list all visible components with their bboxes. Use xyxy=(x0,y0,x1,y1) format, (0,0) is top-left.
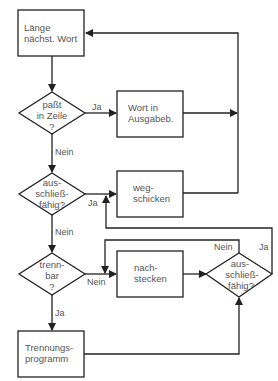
node-text: Länge xyxy=(24,22,50,33)
node-text: ? xyxy=(49,121,54,132)
edge-n5-d4 xyxy=(84,298,239,354)
label-d2-nein: Nein xyxy=(55,227,74,237)
node-text: Trennungs- xyxy=(25,342,73,353)
process-box-nachstecken: nach- stecken xyxy=(117,251,183,297)
label-d3-ja: Ja xyxy=(55,308,65,318)
node-text: trenn- xyxy=(40,259,65,270)
decision-passt-in-zeile: paßt in Zeile ? xyxy=(19,92,85,134)
node-text: bar xyxy=(45,270,59,281)
process-box-wegschicken: weg- schicken xyxy=(117,171,183,217)
node-text: schicken xyxy=(133,193,170,204)
node-text: weg- xyxy=(132,182,154,193)
label-d1-ja: Ja xyxy=(92,102,102,112)
node-text: aus- xyxy=(43,177,61,188)
decision-trennbar: trenn- bar ? xyxy=(19,253,85,295)
node-text: schließ- xyxy=(35,188,68,199)
label-d4-ja: Ja xyxy=(259,242,269,252)
decision-ausschliessfaehig-1: aus- schließ- fähig? xyxy=(19,173,85,215)
node-text: nach- xyxy=(134,262,158,273)
node-text: stecken xyxy=(134,273,167,284)
process-box-laenge-naechst-wort: Länge nächst. Wort xyxy=(18,10,84,56)
label-d3-nein: Nein xyxy=(87,277,106,287)
node-text: programm xyxy=(25,353,68,364)
decision-ausschliessfaehig-2: aus- schließ- fähig? xyxy=(206,253,272,297)
flowchart: Länge nächst. Wort paßt in Zeile ? Wort … xyxy=(0,0,278,381)
process-box-wort-in-ausgabeb: Wort in Ausgabeb. xyxy=(117,91,183,137)
node-text: ? xyxy=(49,281,54,292)
label-d4-nein: Nein xyxy=(214,242,233,252)
process-box-trennungsprogramm: Trennungs- programm xyxy=(18,331,84,377)
node-text: Wort in xyxy=(128,102,158,113)
label-d1-nein: Nein xyxy=(55,147,74,157)
node-text: aus- xyxy=(231,258,249,269)
node-text: fähig? xyxy=(39,199,65,210)
node-text: Ausgabeb. xyxy=(128,113,173,124)
node-text: in Zeile xyxy=(37,110,68,121)
node-text: paßt xyxy=(42,99,61,110)
node-text: nächst. Wort xyxy=(24,33,78,44)
node-text: schließ- xyxy=(225,269,258,280)
label-d2-ja: Ja xyxy=(88,198,98,208)
node-text: fähig? xyxy=(228,280,254,291)
